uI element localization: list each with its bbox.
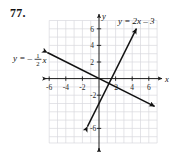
coordinate-plane-graph: x y -6 -4 -2 2 4 6 6 4 2 -2 -6 bbox=[0, 0, 175, 160]
fraction-denominator: 2 bbox=[36, 60, 39, 67]
x-tick-label: 4 bbox=[130, 83, 134, 92]
x-tick-label: -2 bbox=[79, 83, 85, 92]
line-label-lhs: y = – bbox=[12, 53, 33, 63]
line-label-negative-half-x: y = – 1 2 x bbox=[12, 52, 47, 67]
y-tick-label: 6 bbox=[90, 25, 94, 34]
y-tick-label: -2 bbox=[90, 91, 96, 100]
figure-container: 77. bbox=[0, 0, 175, 160]
fraction-numerator: 1 bbox=[36, 52, 39, 59]
x-tick-label: -6 bbox=[46, 83, 52, 92]
x-axis-label: x bbox=[164, 74, 169, 84]
x-tick-label: 6 bbox=[147, 83, 151, 92]
fraction-variable: x bbox=[42, 55, 47, 65]
x-tick-label: -4 bbox=[63, 83, 69, 92]
y-axis-label: y bbox=[101, 11, 106, 21]
y-tick-label: 2 bbox=[90, 58, 94, 67]
y-tick-label: 4 bbox=[90, 41, 94, 50]
y-tick-label: -6 bbox=[90, 124, 96, 133]
line-label-2x-minus-3: y = 2x – 3 bbox=[117, 16, 155, 26]
